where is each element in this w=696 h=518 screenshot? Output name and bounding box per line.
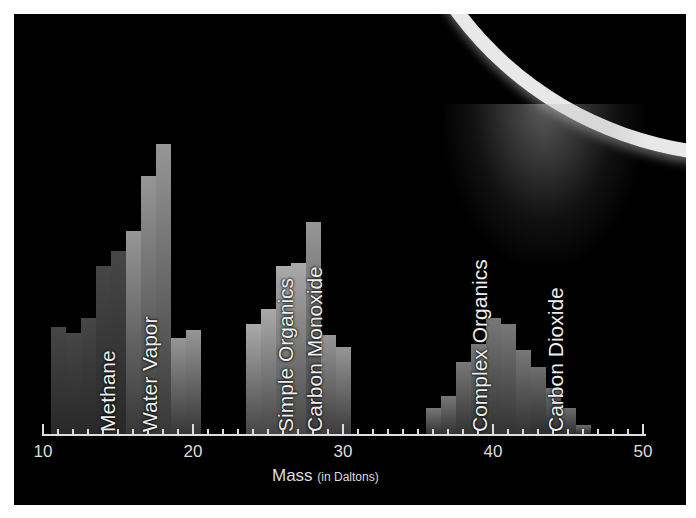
tick	[87, 429, 89, 434]
tick	[417, 429, 419, 434]
label-carbon-dioxide: Carbon Dioxide	[544, 287, 568, 432]
tick	[507, 429, 509, 434]
label-simple-organics: Simple Organics	[274, 278, 298, 432]
chart-panel: Methane Water Vapor Simple Organics Carb…	[14, 14, 686, 505]
tick	[552, 429, 554, 434]
tick-label-40: 40	[484, 442, 503, 462]
bar	[246, 324, 261, 434]
tick	[627, 429, 629, 434]
tick	[522, 429, 524, 434]
tick	[282, 429, 284, 434]
tick	[117, 429, 119, 434]
label-methane: Methane	[96, 350, 120, 432]
tick-label-30: 30	[334, 442, 353, 462]
tick-label-20: 20	[184, 442, 203, 462]
tick	[597, 429, 599, 434]
bar	[336, 347, 351, 434]
tick	[192, 424, 194, 434]
x-axis-label: Mass (in Daltons)	[272, 466, 379, 486]
tick	[207, 429, 209, 434]
x-axis-unit: (in Daltons)	[317, 470, 378, 484]
tick	[567, 429, 569, 434]
tick	[162, 429, 164, 434]
tick	[312, 429, 314, 434]
plume-glow	[444, 104, 644, 264]
tick	[642, 424, 644, 434]
tick	[147, 429, 149, 434]
bar	[81, 318, 96, 434]
bar	[171, 338, 186, 434]
tick	[132, 429, 134, 434]
tick	[492, 424, 494, 434]
tick	[477, 429, 479, 434]
tick	[582, 429, 584, 434]
label-carbon-monoxide: Carbon Monoxide	[303, 266, 327, 432]
tick	[387, 429, 389, 434]
tick	[432, 429, 434, 434]
tick	[42, 424, 44, 434]
bar	[51, 327, 66, 434]
bar	[501, 324, 516, 434]
tick	[102, 429, 104, 434]
tick	[357, 429, 359, 434]
tick	[237, 429, 239, 434]
tick	[177, 429, 179, 434]
bar	[66, 333, 81, 435]
label-water-vapor: Water Vapor	[138, 316, 162, 432]
tick	[297, 429, 299, 434]
tick	[252, 429, 254, 434]
tick	[447, 429, 449, 434]
tick	[222, 429, 224, 434]
tick	[537, 429, 539, 434]
tick	[57, 429, 59, 434]
bar	[516, 350, 531, 434]
tick	[612, 429, 614, 434]
x-axis-title: Mass	[272, 466, 313, 485]
tick	[267, 429, 269, 434]
tick	[372, 429, 374, 434]
tick	[72, 429, 74, 434]
tick	[342, 424, 344, 434]
tick	[462, 429, 464, 434]
tick-label-10: 10	[34, 442, 53, 462]
x-axis	[42, 434, 646, 436]
tick-label-50: 50	[634, 442, 653, 462]
label-complex-organics: Complex Organics	[468, 259, 492, 432]
bar	[186, 330, 201, 434]
tick	[402, 429, 404, 434]
tick	[327, 429, 329, 434]
